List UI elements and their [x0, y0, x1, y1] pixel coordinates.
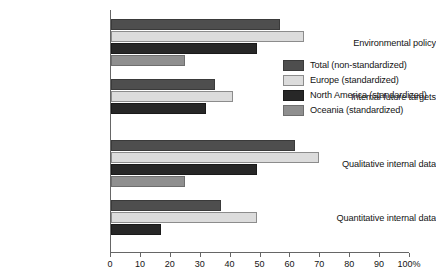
x-tick-label: 10 [135, 259, 145, 269]
bar [111, 164, 257, 175]
bar [111, 43, 257, 54]
bar [111, 176, 185, 187]
x-tick [230, 253, 231, 257]
x-tick-label: 20 [165, 259, 175, 269]
x-tick-label: 60 [284, 259, 294, 269]
category-label: Qualitative internal data [332, 159, 436, 169]
bar [111, 31, 304, 42]
x-tick [260, 253, 261, 257]
x-tick-label: 70 [314, 259, 324, 269]
bar [111, 212, 257, 223]
legend-label: Oceania (standardized) [310, 104, 403, 117]
bar [111, 152, 319, 163]
x-tick [289, 253, 290, 257]
category-label: Environmental policy [332, 38, 436, 48]
legend-swatch-icon [283, 75, 304, 86]
legend-item: Oceania (standardized) [283, 104, 435, 118]
x-tick [170, 253, 171, 257]
x-tick-label: 0 [107, 259, 112, 269]
legend-item: North America (standardized) [283, 89, 435, 103]
bar [111, 79, 215, 90]
bar-chart: 0102030405060708090100% Environmental po… [0, 0, 436, 279]
x-tick-label: 40 [225, 259, 235, 269]
bar [111, 103, 206, 114]
chart-legend: Total (non-standardized)Europe (standard… [283, 59, 435, 119]
legend-label: Total (non-standardized) [310, 59, 407, 72]
category-label: Quantitative internal data [332, 213, 436, 223]
bar [111, 224, 161, 235]
x-tick [200, 253, 201, 257]
bar [111, 140, 295, 151]
x-tick-label: 50 [254, 259, 264, 269]
legend-label: North America (standardized) [310, 89, 427, 102]
x-tick [379, 253, 380, 257]
x-tick-label: 30 [195, 259, 205, 269]
bar [111, 91, 233, 102]
legend-label: Europe (standardized) [310, 74, 399, 87]
legend-swatch-icon [283, 60, 304, 71]
x-tick-label: 100% [397, 259, 420, 269]
x-tick [349, 253, 350, 257]
x-tick-label: 90 [374, 259, 384, 269]
bar [111, 19, 280, 30]
legend-swatch-icon [283, 105, 304, 116]
legend-item: Total (non-standardized) [283, 59, 435, 73]
x-tick [409, 253, 410, 257]
bar [111, 55, 185, 66]
x-tick-label: 80 [344, 259, 354, 269]
legend-item: Europe (standardized) [283, 74, 435, 88]
x-tick [110, 253, 111, 257]
legend-swatch-icon [283, 90, 304, 101]
x-tick [140, 253, 141, 257]
bar [111, 200, 221, 211]
x-tick [319, 253, 320, 257]
